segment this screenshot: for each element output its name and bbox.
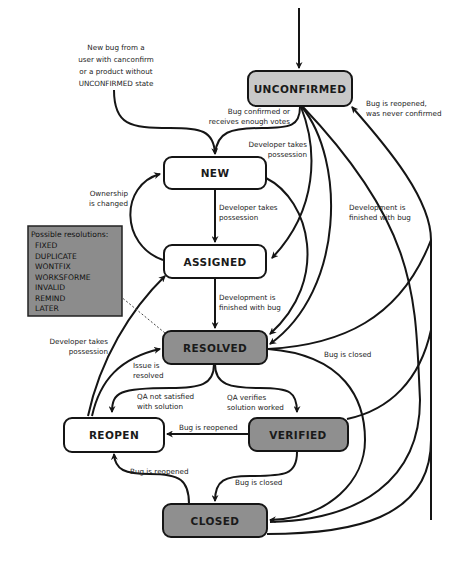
edge-label: resolved <box>133 371 164 380</box>
edge-label: finished with bug <box>219 303 281 312</box>
node-label: ASSIGNED <box>183 256 246 268</box>
edge-label: Developer takes <box>219 203 278 212</box>
edge-entry-new <box>114 90 215 154</box>
resolutions-heading: Possible resolutions: <box>31 230 108 239</box>
node-unconfirmed: UNCONFIRMED <box>248 71 352 106</box>
bug-lifecycle-diagram: Possible resolutions: FIXED DUPLICATE WO… <box>0 0 462 566</box>
edge-reopened-never-confirmed <box>352 107 431 520</box>
edge-label: possession <box>268 150 307 159</box>
node-label: CLOSED <box>191 515 240 527</box>
edge-label: QA not satisfied <box>137 392 194 401</box>
node-label: RESOLVED <box>183 342 247 354</box>
node-assigned: ASSIGNED <box>164 245 266 278</box>
edge-label: Bug is closed <box>235 478 282 487</box>
edge-assigned-new <box>130 174 163 260</box>
resolutions-box: Possible resolutions: FIXED DUPLICATE WO… <box>28 226 122 316</box>
node-new: NEW <box>164 157 266 189</box>
edge-label: solution worked <box>227 403 284 412</box>
node-label: NEW <box>201 167 230 179</box>
node-label: REOPEN <box>89 429 139 441</box>
node-reopen: REOPEN <box>64 418 164 452</box>
entry-note-line: New bug from a <box>87 43 144 52</box>
node-verified: VERIFIED <box>249 418 348 451</box>
resolution-item: INVALID <box>35 283 65 292</box>
edge-resolved-unconfirmed <box>268 240 431 349</box>
edge-label: Development is <box>349 203 406 212</box>
resolution-item: WORKSFORME <box>35 273 91 282</box>
node-label: VERIFIED <box>269 429 326 441</box>
edge-label: Issue is <box>133 361 160 370</box>
resolution-item: FIXED <box>35 241 58 250</box>
edge-label: was never confirmed <box>366 109 441 118</box>
edge-label: Bug is closed <box>324 350 371 359</box>
resolution-item: DUPLICATE <box>35 252 77 261</box>
edge-label: is changed <box>89 199 128 208</box>
edge-label: with solution <box>137 402 183 411</box>
edge-unconfirmed-closed <box>270 107 420 522</box>
edge-label: Ownership <box>90 189 129 198</box>
node-closed: CLOSED <box>163 504 267 537</box>
resolution-item: REMIND <box>35 294 66 303</box>
edge-closed-reopen <box>114 454 189 504</box>
edge-label: Bug confirmed or <box>228 107 290 116</box>
edge-label: possession <box>219 213 258 222</box>
edge-label: Bug is reopened <box>130 467 189 476</box>
edge-label: Developer takes <box>49 337 108 346</box>
entry-note-line: UNCONFIRMED state <box>79 79 154 88</box>
node-label: UNCONFIRMED <box>254 83 347 95</box>
entry-note-line: user with canconfirm <box>78 55 154 64</box>
resolution-item: WONTFIX <box>35 262 71 271</box>
edge-label: Developer takes <box>248 140 307 149</box>
edge-verified-closed <box>215 452 297 501</box>
edge-label: Bug is reopened, <box>366 99 427 108</box>
resolution-item: LATER <box>35 304 59 313</box>
entry-note-line: or a product without <box>79 67 152 76</box>
edge-label: Bug is reopened <box>179 423 238 432</box>
edge-label: Development is <box>219 293 276 302</box>
entry-note: New bug from a user with canconfirm or a… <box>78 43 154 88</box>
edge-label: possession <box>69 347 108 356</box>
node-resolved: RESOLVED <box>163 331 267 364</box>
edge-label: receives enough votes <box>209 117 291 126</box>
edge-label: finished with bug <box>349 213 411 222</box>
edge-label: QA verifies <box>227 393 266 402</box>
